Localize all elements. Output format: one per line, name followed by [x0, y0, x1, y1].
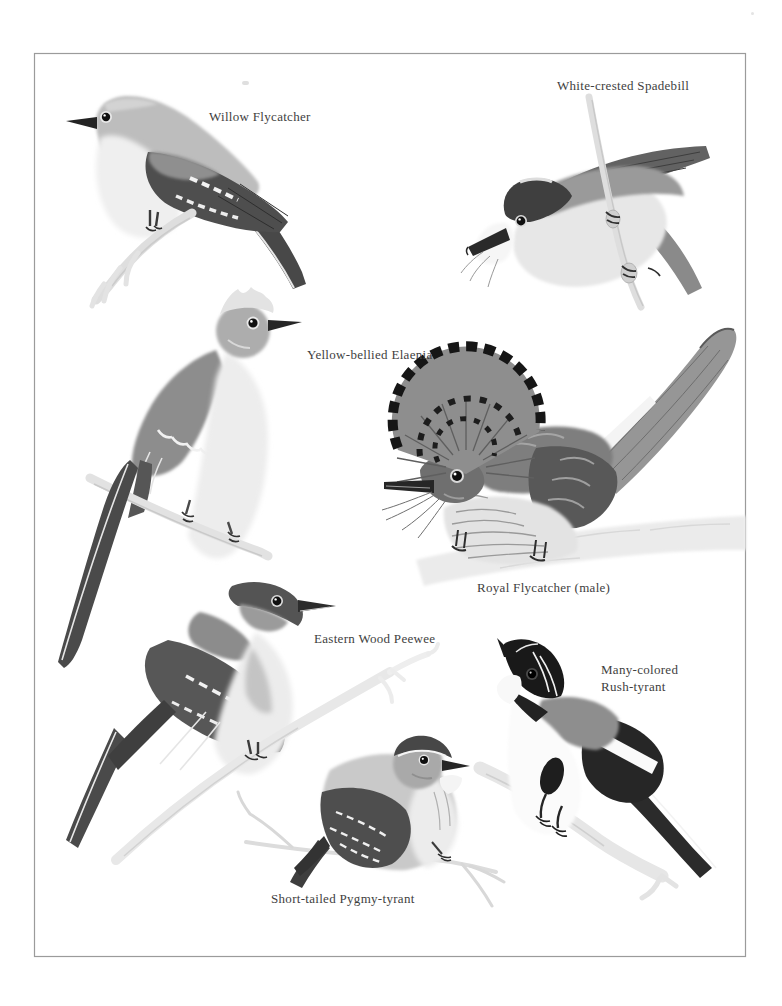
willow-flycatcher-illustration: [66, 96, 306, 306]
elaenia-eye-glint: [250, 320, 253, 323]
label-royal-flycatcher: Royal Flycatcher (male): [477, 579, 610, 596]
print-speck: [242, 81, 249, 85]
print-speck: [751, 12, 754, 15]
peewee-eye-glint: [274, 598, 276, 600]
peewee-eye: [273, 597, 282, 606]
label-rush-tyrant-line1: Many-colored: [601, 661, 678, 678]
label-white-crested-spadebill: White-crested Spadebill: [557, 77, 689, 94]
label-yellow-bellied-elaenia: Yellow-bellied Elaenia: [307, 346, 433, 363]
elaenia-bill: [268, 320, 302, 331]
many-colored-rush-tyrant-illustration: [480, 638, 716, 898]
label-rush-tyrant-line2: Rush-tyrant: [601, 678, 678, 695]
spadebill-eye: [517, 217, 526, 226]
peewee-branch-tip: [390, 654, 428, 672]
royal-flycatcher-illustration: [382, 329, 746, 586]
short-tailed-pygmy-tyrant-illustration: [238, 736, 504, 906]
pygmy-tyrant-eye: [420, 756, 428, 764]
spadebill-eye-glint: [518, 218, 520, 220]
peewee-tail-edge: [70, 732, 116, 842]
pygmy-tyrant-eye-glint: [422, 758, 424, 760]
spadebill-perch-knot-lower: [621, 263, 637, 283]
elaenia-eye: [248, 318, 257, 327]
elaenia-tail: [58, 460, 138, 668]
plate-illustration: [0, 0, 782, 1006]
rush-tyrant-eye: [528, 670, 536, 678]
book-plate-page: Willow Flycatcher White-crested Spadebil…: [0, 0, 782, 1006]
royal-flycatcher-bristles: [382, 492, 446, 538]
label-eastern-wood-peewee: Eastern Wood Peewee: [314, 630, 435, 647]
label-many-colored-rush-tyrant: Many-colored Rush-tyrant: [601, 661, 678, 695]
label-willow-flycatcher: Willow Flycatcher: [209, 108, 311, 125]
white-crested-spadebill-illustration: [461, 97, 710, 307]
royal-flycatcher-eye-glint: [454, 473, 457, 476]
label-short-tailed-pygmy-tyrant: Short-tailed Pygmy-tyrant: [271, 890, 415, 907]
willow-flycatcher-eye-glint: [103, 114, 105, 116]
willow-flycatcher-eye: [102, 113, 110, 121]
willow-flycatcher-bill: [66, 117, 97, 129]
royal-flycatcher-eye: [452, 471, 462, 481]
pygmy-tyrant-bill: [442, 760, 470, 771]
rush-tyrant-branch-fork: [642, 876, 676, 898]
rush-tyrant-eye-glint: [530, 672, 532, 674]
spadebill-bill-hook: [467, 247, 469, 255]
